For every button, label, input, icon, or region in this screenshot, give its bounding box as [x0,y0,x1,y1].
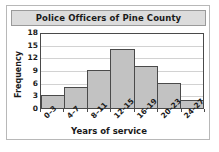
y-axis-tick-label: 12 [24,54,38,62]
bar-series [41,34,203,108]
chart-title-banner: Police Officers of Pine County [11,10,206,26]
y-axis-tick-labels: 0369121518 [24,32,38,116]
chart-figure: Police Officers of Pine County Frequency… [6,5,210,140]
y-axis-tick-label: 18 [24,29,38,37]
y-axis-tick-label: 9 [24,67,38,75]
y-axis-tick-label: 15 [24,42,38,50]
y-axis-tick-label: 6 [24,80,38,88]
y-axis-title: Frequency [13,36,24,112]
chart-title: Police Officers of Pine County [36,13,181,23]
y-axis-tick-label: 0 [24,105,38,113]
x-axis-tick-mark [204,109,205,112]
y-axis-title-label: Frequency [14,51,23,98]
y-axis-tick-label: 3 [24,92,38,100]
plot-area [40,33,204,109]
x-axis-title: Years of service [7,126,211,136]
